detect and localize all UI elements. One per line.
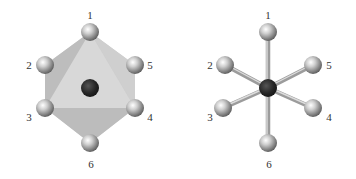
ligand-atom-2: [216, 56, 234, 74]
ligand-atom-4: [126, 99, 144, 117]
label-2: 2: [26, 59, 32, 71]
label-6: 6: [266, 158, 272, 170]
label-1: 1: [87, 9, 93, 21]
ligand-atom-3: [214, 99, 232, 117]
ligand-atom-3: [36, 99, 54, 117]
ligand-atom-1: [259, 23, 277, 41]
ligand-atom-5: [126, 56, 144, 74]
label-3: 3: [26, 111, 32, 123]
label-2: 2: [207, 59, 213, 71]
octahedron-polyhedron: 1 2 3 4 5 6: [26, 9, 153, 170]
label-1: 1: [265, 9, 271, 21]
label-3: 3: [207, 111, 213, 123]
label-5: 5: [147, 59, 153, 71]
ligand-atom-2: [36, 56, 54, 74]
label-6: 6: [88, 158, 94, 170]
ligand-atom-5: [304, 56, 322, 74]
ligand-atom-1: [81, 23, 99, 41]
octahedral-geometry-figure: 1 2 3 4 5 6 1 2 3: [0, 0, 356, 179]
figure-svg: 1 2 3 4 5 6 1 2 3: [0, 0, 356, 179]
label-5: 5: [326, 59, 332, 71]
ball-and-stick-model: 1 2 3 4 5 6: [207, 9, 332, 170]
label-4: 4: [147, 111, 153, 123]
central-metal-atom: [81, 79, 99, 97]
ligand-atom-6: [259, 134, 277, 152]
label-4: 4: [326, 111, 332, 123]
ligand-atom-4: [304, 99, 322, 117]
ligand-atom-6: [81, 134, 99, 152]
central-metal-atom: [259, 79, 277, 97]
